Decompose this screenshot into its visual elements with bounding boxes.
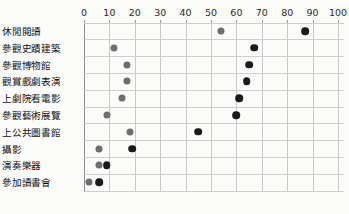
data-point <box>126 128 133 135</box>
x-axis-tick-label: 100 <box>329 7 347 18</box>
data-point <box>86 179 93 186</box>
horizontal-gridline <box>84 73 344 74</box>
data-point <box>96 145 103 152</box>
y-axis-category-label: 參加讀書會 <box>2 175 80 189</box>
data-point <box>233 111 241 119</box>
data-point <box>119 95 126 102</box>
y-axis-category-label: 參觀史蹟建築 <box>2 41 80 55</box>
data-point <box>111 44 118 51</box>
x-axis-tick-label: 10 <box>103 7 115 18</box>
y-axis-category-label: 參觀藝術展覽 <box>2 108 80 122</box>
x-axis-tick-label: 0 <box>81 7 87 18</box>
horizontal-gridline <box>84 123 344 124</box>
x-axis-tick-label: 90 <box>307 7 319 18</box>
data-point <box>218 28 225 35</box>
y-axis-category-label: 攝影 <box>2 142 80 156</box>
y-axis-category-label: 演奏樂器 <box>2 158 80 172</box>
horizontal-gridline <box>84 56 344 57</box>
data-point <box>250 44 258 52</box>
data-point <box>195 128 203 136</box>
data-point <box>124 61 131 68</box>
data-point <box>103 162 111 170</box>
x-axis-tick-label: 60 <box>230 7 242 18</box>
data-point <box>103 112 110 119</box>
chart-figure: 0102030405060708090100 休閒閱讀參觀史蹟建築參觀博物館觀賞… <box>0 0 349 214</box>
data-point <box>301 27 309 35</box>
y-axis-category-label: 觀賞戲劇表演 <box>2 74 80 88</box>
y-axis-category-label: 休閒閱讀 <box>2 24 80 38</box>
x-axis-tick-label: 40 <box>180 7 192 18</box>
horizontal-gridline <box>84 191 344 192</box>
x-axis-tick-label: 30 <box>154 7 166 18</box>
data-point <box>235 94 243 102</box>
y-axis-category-label: 上公共圖書館 <box>2 125 80 139</box>
horizontal-gridline <box>84 157 344 158</box>
x-axis-tick-label: 20 <box>129 7 141 18</box>
data-point <box>96 162 103 169</box>
data-point <box>243 78 251 86</box>
x-axis-tick-label: 70 <box>256 7 268 18</box>
horizontal-gridline <box>84 174 344 175</box>
data-point <box>128 145 136 153</box>
horizontal-gridline <box>84 39 344 40</box>
x-axis-tick-label: 50 <box>205 7 217 18</box>
horizontal-gridline <box>84 107 344 108</box>
horizontal-gridline <box>84 90 344 91</box>
data-point <box>124 78 131 85</box>
y-axis-category-label: 參觀博物館 <box>2 58 80 72</box>
horizontal-gridline <box>84 23 344 24</box>
x-axis-tick-label: 80 <box>281 7 293 18</box>
data-point <box>245 61 253 69</box>
y-axis-category-label: 上劇院看電影 <box>2 91 80 105</box>
horizontal-gridline <box>84 140 344 141</box>
data-point <box>95 178 103 186</box>
